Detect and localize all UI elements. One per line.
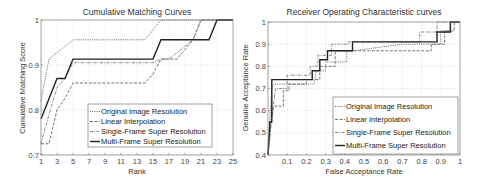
legend-label: Linear Interpolation <box>101 117 165 126</box>
legend-label: Linear Interpolation <box>346 115 410 124</box>
legend-label: Single-Frame Super Resolution <box>346 128 451 137</box>
x-tick-label: 0.9 <box>436 157 446 166</box>
y-tick-label: 0.7 <box>256 84 266 93</box>
roc-x-label: False Acceptance Rate <box>325 167 402 176</box>
y-tick-label: 0.6 <box>256 106 266 115</box>
x-tick-label: 21 <box>197 157 205 166</box>
legend-label: Original Image Resolution <box>101 107 187 116</box>
roc-chart-title: Receiver Operating Characteristic curves <box>287 7 442 17</box>
y-tick-label: 0.5 <box>256 128 266 137</box>
x-tick-label: 17 <box>165 157 173 166</box>
x-tick-label: 23 <box>213 157 221 166</box>
x-tick-label: 1 <box>458 157 462 166</box>
legend-label: Original Image Resolution <box>346 102 432 111</box>
x-tick-label: 0.6 <box>378 157 388 166</box>
legend-label: Multi-Frame Super Resolution <box>101 137 201 146</box>
y-tick-label: 0.4 <box>256 151 266 160</box>
x-tick-label: 0.5 <box>359 157 369 166</box>
x-tick-label: 11 <box>117 157 125 166</box>
x-tick-label: 0.7 <box>397 157 407 166</box>
roc-legend: Original Image ResolutionLinear Interpol… <box>333 97 458 154</box>
cmc-x-label: Rank <box>128 167 146 176</box>
roc-chart: Receiver Operating Characteristic curves… <box>241 7 462 176</box>
x-tick-label: 19 <box>181 157 189 166</box>
x-tick-label: 0.3 <box>320 157 330 166</box>
cmc-y-label: Cumulative Matching Score <box>18 42 27 134</box>
x-tick-label: 7 <box>87 157 91 166</box>
y-tick-label: 0.9 <box>29 61 39 70</box>
cmc-chart-title: Cumulative Matching Curves <box>83 7 192 17</box>
x-tick-label: 5 <box>71 157 75 166</box>
x-tick-label: 0.2 <box>301 157 311 166</box>
x-tick-label: 1 <box>39 157 43 166</box>
x-tick-label: 0.4 <box>340 157 350 166</box>
x-tick-label: 9 <box>103 157 107 166</box>
figure-canvas: Cumulative Matching Curves 1357911131517… <box>0 0 480 179</box>
y-tick-label: 0.9 <box>256 40 266 49</box>
x-tick-label: 0.8 <box>416 157 426 166</box>
y-tick-label: 0.8 <box>256 62 266 71</box>
y-tick-label: 0.7 <box>29 151 39 160</box>
legend-label: Multi-Frame Super Resolution <box>346 141 446 150</box>
cmc-legend: Original Image ResolutionLinear Interpol… <box>88 104 212 147</box>
y-tick-label: 0.8 <box>29 106 39 115</box>
y-tick-label: 1 <box>35 16 39 25</box>
cmc-chart: Cumulative Matching Curves 1357911131517… <box>18 7 237 176</box>
x-tick-label: 3 <box>55 157 59 166</box>
roc-y-label: Genuine Acceptance Rate <box>241 44 250 131</box>
x-tick-label: 15 <box>149 157 157 166</box>
y-tick-label: 1 <box>262 18 266 27</box>
legend-label: Single-Frame Super Resolution <box>101 127 206 136</box>
x-tick-label: 25 <box>229 157 237 166</box>
x-tick-label: 13 <box>133 157 141 166</box>
x-tick-label: 0.1 <box>282 157 292 166</box>
